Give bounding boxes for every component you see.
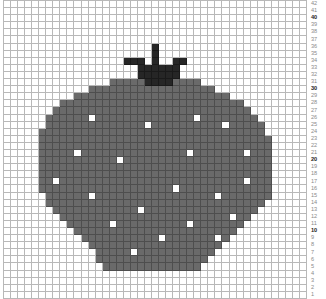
- body-cell: [222, 129, 229, 136]
- grid-cell: [286, 200, 293, 207]
- grid-cell: [194, 278, 201, 285]
- body-cell: [117, 79, 124, 86]
- grid-cell: [32, 115, 39, 122]
- grid-cell: [117, 29, 124, 36]
- grid-cell: [237, 22, 244, 29]
- body-cell: [39, 185, 46, 192]
- grid-cell: [215, 15, 222, 22]
- grid-cell: [11, 8, 18, 15]
- body-cell: [258, 171, 265, 178]
- body-cell: [82, 143, 89, 150]
- body-cell: [173, 122, 180, 129]
- grid-cell: [237, 65, 244, 72]
- body-cell: [67, 178, 74, 185]
- body-cell: [173, 164, 180, 171]
- grid-cell: [18, 36, 25, 43]
- grid-cell: [258, 100, 265, 107]
- body-cell: [159, 157, 166, 164]
- grid-cell: [18, 263, 25, 270]
- grid-cell: [201, 72, 208, 79]
- body-cell: [117, 207, 124, 214]
- grid-cell: [32, 122, 39, 129]
- grid-cell: [244, 72, 251, 79]
- body-cell: [187, 249, 194, 256]
- body-cell: [258, 122, 265, 129]
- grid-cell: [124, 278, 131, 285]
- grid-cell: [46, 271, 53, 278]
- body-cell: [82, 136, 89, 143]
- grid-cell: [74, 72, 81, 79]
- grid-cell: [46, 22, 53, 29]
- grid-cell: [244, 8, 251, 15]
- grid-cell: [67, 44, 74, 51]
- stem-cell: [159, 72, 166, 79]
- body-cell: [110, 157, 117, 164]
- grid-cell: [46, 1, 53, 8]
- grid-cell: [117, 58, 124, 65]
- grid-cell: [74, 242, 81, 249]
- grid-cell: [251, 15, 258, 22]
- grid-cell: [152, 22, 159, 29]
- body-cell: [244, 207, 251, 214]
- grid-cell: [159, 44, 166, 51]
- grid-cell: [215, 285, 222, 292]
- body-cell: [166, 256, 173, 263]
- body-cell: [117, 107, 124, 114]
- body-cell: [201, 86, 208, 93]
- grid-cell: [187, 285, 194, 292]
- body-cell: [145, 221, 152, 228]
- grid-cell: [124, 8, 131, 15]
- grid-cell: [187, 51, 194, 58]
- grid-cell: [11, 107, 18, 114]
- stem-cell: [159, 65, 166, 72]
- grid-cell: [237, 235, 244, 242]
- body-cell: [96, 214, 103, 221]
- grid-cell: [117, 51, 124, 58]
- grid-cell: [272, 44, 279, 51]
- body-cell: [124, 115, 131, 122]
- body-cell: [173, 200, 180, 207]
- grid-cell: [60, 44, 67, 51]
- grid-cell: [138, 36, 145, 43]
- grid-cell: [222, 278, 229, 285]
- grid-cell: [265, 44, 272, 51]
- body-cell: [215, 214, 222, 221]
- grid-cell: [293, 29, 300, 36]
- body-cell: [110, 164, 117, 171]
- grid-cell: [286, 278, 293, 285]
- grid-cell: [18, 221, 25, 228]
- body-cell: [187, 207, 194, 214]
- grid-cell: [187, 271, 194, 278]
- grid-cell: [208, 65, 215, 72]
- grid-cell: [293, 65, 300, 72]
- body-cell: [194, 185, 201, 192]
- grid-cell: [201, 263, 208, 270]
- body-cell: [74, 93, 81, 100]
- grid-cell: [293, 271, 300, 278]
- body-cell: [145, 256, 152, 263]
- body-cell: [103, 263, 110, 270]
- body-cell: [124, 185, 131, 192]
- grid-cell: [286, 36, 293, 43]
- row-label: 35: [311, 50, 317, 57]
- body-cell: [82, 164, 89, 171]
- body-cell: [159, 100, 166, 107]
- grid-cell: [67, 93, 74, 100]
- grid-cell: [25, 164, 32, 171]
- body-cell: [166, 263, 173, 270]
- grid-cell: [159, 51, 166, 58]
- body-cell: [53, 129, 60, 136]
- stem-cell: [173, 72, 180, 79]
- grid-cell: [187, 65, 194, 72]
- grid-cell: [215, 256, 222, 263]
- body-cell: [131, 235, 138, 242]
- grid-cell: [25, 207, 32, 214]
- body-cell: [173, 79, 180, 86]
- grid-cell: [293, 221, 300, 228]
- grid-cell: [32, 242, 39, 249]
- body-cell: [265, 185, 272, 192]
- body-cell: [89, 136, 96, 143]
- grid-cell: [67, 51, 74, 58]
- grid-cell: [265, 235, 272, 242]
- grid-cell: [18, 207, 25, 214]
